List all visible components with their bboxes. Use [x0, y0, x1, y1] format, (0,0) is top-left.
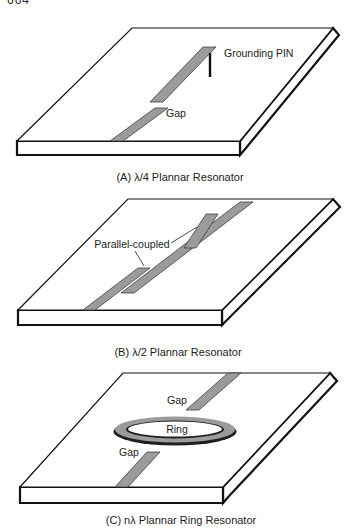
slab-c-front-face	[20, 487, 223, 503]
page-number: 664	[7, 0, 30, 7]
gap-label-top: Gap	[167, 394, 187, 406]
ring-label: Ring	[166, 423, 188, 435]
caption-b: (B) λ/2 Plannar Resonator	[114, 346, 242, 358]
slab-a-front-face	[17, 141, 240, 155]
book-page: 664 Grounding PIN Gap (A) λ/4 Plannar Re…	[0, 0, 348, 528]
caption-c: (C) nλ Plannar Ring Resonator	[106, 514, 257, 526]
figure-c-ring-resonator: Gap Ring Gap (C) nλ Plannar Ring Resonat…	[20, 373, 337, 526]
gap-label-a: Gap	[166, 107, 186, 119]
figure-b-half-wave-resonator: Parallel-coupled (B) λ/2 Plannar Resonat…	[18, 199, 340, 358]
figure-a-quarter-wave-resonator: Grounding PIN Gap (A) λ/4 Plannar Resona…	[17, 28, 339, 183]
parallel-coupled-label: Parallel-coupled	[94, 238, 169, 250]
resonator-figure-canvas: Grounding PIN Gap (A) λ/4 Plannar Resona…	[0, 0, 348, 528]
slab-b-front-face	[18, 310, 222, 325]
caption-a: (A) λ/4 Plannar Resonator	[116, 171, 244, 183]
grounding-pin-label: Grounding PIN	[224, 47, 293, 59]
gap-label-bottom: Gap	[119, 446, 139, 458]
